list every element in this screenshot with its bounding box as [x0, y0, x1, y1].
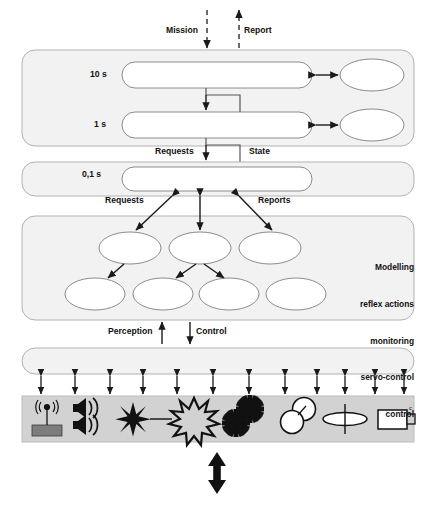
side-text-line-5: control	[318, 408, 414, 420]
state-label-upper: State	[249, 147, 270, 157]
ellipse-r2-c3[interactable]	[199, 278, 259, 310]
ellipse-r2-c1[interactable]	[65, 278, 125, 310]
side-text-line-2: reflex actions	[318, 298, 414, 310]
capsule-1s[interactable]	[122, 112, 312, 138]
ellipse-r2-c2[interactable]	[133, 278, 193, 310]
side-text-line-3: monitoring	[318, 335, 414, 347]
mission-report-arrows	[207, 10, 239, 48]
gear-front	[222, 409, 250, 437]
layer-band-deliberative	[22, 50, 414, 146]
ellipse-r1-c3[interactable]	[239, 232, 301, 264]
side-text-line-4: servo-control	[318, 371, 414, 383]
perception-label: Perception	[108, 327, 152, 337]
ellipse-r2-c4[interactable]	[266, 278, 326, 310]
environment-interaction-arrow	[208, 452, 226, 494]
period-label-10s: 10 s	[90, 70, 107, 80]
env-arrow-shape	[208, 452, 226, 494]
layer-band-sequencing	[22, 162, 414, 196]
reactive-layer-side-text: Modelling reflex actions monitoring serv…	[318, 237, 414, 432]
control-label: Control	[196, 327, 227, 337]
perception-control-arrows	[162, 322, 190, 344]
ellipse-r1-c1[interactable]	[99, 232, 161, 264]
report-label: Report	[244, 26, 272, 36]
ellipse-1s[interactable]	[340, 109, 404, 141]
side-text-line-1: Modelling	[318, 261, 414, 273]
period-label-1s: 1 s	[94, 120, 106, 130]
requests-label-upper: Requests	[155, 147, 194, 157]
period-label-01s: 0,1 s	[82, 170, 101, 180]
mission-label: Mission	[166, 26, 198, 36]
ellipse-r1-c2[interactable]	[169, 232, 231, 264]
capsule-10s[interactable]	[122, 62, 312, 88]
requests-label-lower: Requests	[105, 196, 144, 206]
reports-label-lower: Reports	[258, 196, 290, 206]
ellipse-10s[interactable]	[340, 59, 404, 91]
capsule-01s[interactable]	[122, 167, 312, 191]
